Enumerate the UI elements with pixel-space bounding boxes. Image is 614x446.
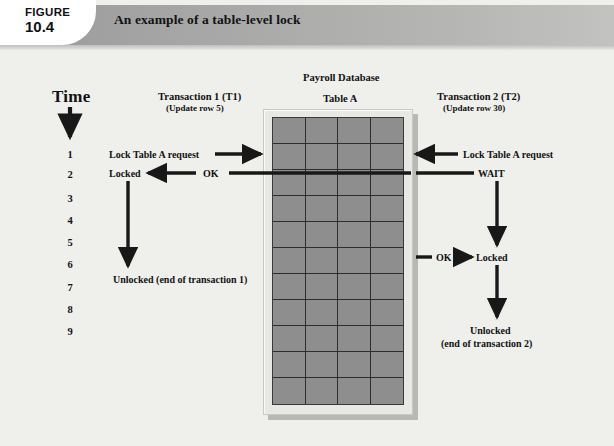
t1-lock-request-label: Lock Table A request [109, 149, 199, 161]
table-cell [338, 300, 371, 326]
table-cell [306, 274, 339, 300]
table-cell [273, 118, 306, 144]
database-name: Payroll Database [303, 72, 380, 84]
time-tick-3: 3 [65, 193, 75, 205]
table-cell [338, 352, 371, 378]
table-cell [371, 326, 404, 352]
table-cell [273, 222, 306, 248]
transaction2-title: Transaction 2 (T2) [437, 91, 520, 103]
table-cell [371, 170, 404, 196]
table-cell [273, 248, 306, 274]
table-cell [306, 196, 339, 222]
table-cell [371, 300, 404, 326]
table-cell [273, 274, 306, 300]
time-axis-label: Time [52, 87, 91, 107]
table-cell [306, 378, 339, 404]
figure-title: An example of a table-level lock [114, 12, 301, 28]
table-cell [306, 222, 339, 248]
t2-ok-label: OK [436, 252, 452, 264]
time-tick-5: 5 [65, 237, 75, 249]
table-cell [306, 326, 339, 352]
figure-number: 10.4 [25, 19, 54, 35]
table-cell [371, 144, 404, 170]
time-tick-8: 8 [65, 304, 75, 316]
table-cell [273, 196, 306, 222]
table-cell [371, 352, 404, 378]
table-cell [273, 170, 306, 196]
transaction2-subtitle: (Update row 30) [443, 103, 505, 113]
figure-label: FIGURE [25, 6, 70, 18]
t2-unlocked-label: Unlocked [470, 325, 511, 337]
time-tick-6: 6 [65, 259, 75, 271]
table-grid [272, 117, 404, 405]
table-cell [306, 248, 339, 274]
table-cell [306, 144, 339, 170]
table-cell [273, 300, 306, 326]
table-cell [273, 378, 306, 404]
time-tick-1: 1 [65, 149, 75, 161]
table-cell [371, 222, 404, 248]
table-cell [371, 274, 404, 300]
diagram-canvas: Time 1 2 3 4 5 6 7 8 9 Transaction 1 (T1… [0, 51, 614, 446]
transaction1-title: Transaction 1 (T1) [158, 91, 241, 103]
t1-locked-label: Locked [109, 168, 141, 180]
table-cell [371, 196, 404, 222]
table-cell [338, 326, 371, 352]
t1-unlocked-label: Unlocked (end of transaction 1) [113, 274, 247, 286]
table-name: Table A [323, 93, 357, 105]
table-cell [338, 118, 371, 144]
table-cell [338, 248, 371, 274]
table-cell [338, 378, 371, 404]
table-cell [371, 378, 404, 404]
t2-locked-label: Locked [476, 252, 508, 264]
figure-page: FIGURE 10.4 An example of a table-level … [0, 0, 614, 446]
table-cell [371, 118, 404, 144]
time-tick-9: 9 [65, 326, 75, 338]
t1-ok-label: OK [203, 168, 219, 180]
table-cell [338, 170, 371, 196]
t2-wait-label: WAIT [478, 168, 505, 180]
table-cell [273, 144, 306, 170]
table-cell [306, 300, 339, 326]
table-cell [306, 118, 339, 144]
table-cell [338, 274, 371, 300]
table-cell [338, 222, 371, 248]
time-tick-4: 4 [65, 215, 75, 227]
table-cell [306, 170, 339, 196]
figure-badge: FIGURE 10.4 [0, 0, 96, 45]
table-cell [306, 352, 339, 378]
table-cell [273, 326, 306, 352]
t2-lock-request-label: Lock Table A request [463, 149, 553, 161]
t2-end-transaction-label: (end of transaction 2) [441, 338, 532, 350]
time-tick-7: 7 [65, 282, 75, 294]
table-cell [273, 352, 306, 378]
table-cell [371, 248, 404, 274]
time-tick-2: 2 [65, 169, 75, 181]
transaction1-subtitle: (Update row 5) [166, 103, 224, 113]
table-cell [338, 144, 371, 170]
table-cell [338, 196, 371, 222]
